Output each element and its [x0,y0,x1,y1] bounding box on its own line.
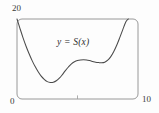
function-graph-figure: 20 0 10 y = S(x) [0,0,159,113]
plot-area [0,0,159,113]
function-curve [17,19,128,82]
x-axis-max-label: 10 [142,95,151,104]
axis-origin-label: 0 [10,97,15,106]
y-axis-max-label: 20 [12,4,21,13]
curve-equation-label: y = S(x) [57,37,89,47]
plot-frame [17,19,138,99]
